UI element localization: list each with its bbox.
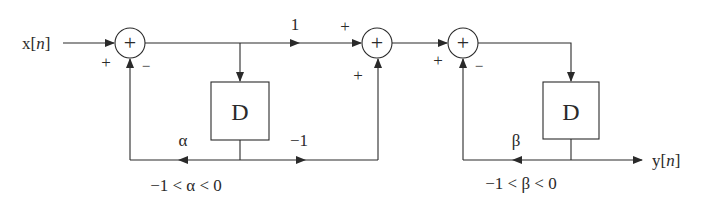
summer-3-sign-minus: −: [475, 58, 483, 74]
block-diagram: x[n] + + − 1 + D α −1 −1 < α < 0 + + +: [0, 0, 706, 208]
alpha-constraint: −1 < α < 0: [150, 176, 222, 195]
input-label: x[n]: [22, 34, 50, 53]
summer-1-sign-minus: −: [142, 58, 150, 74]
gain-1-arrow: [290, 39, 300, 47]
summer-3-symbol: +: [457, 30, 469, 55]
summer-3: +: [448, 28, 478, 58]
summer-3-sign-plus: +: [433, 51, 443, 70]
summer-1: +: [115, 28, 145, 58]
beta-label: β: [512, 131, 521, 150]
beta-arrow: [512, 156, 522, 164]
delay-1: D: [211, 82, 269, 140]
alpha-label: α: [179, 131, 188, 150]
summer-1-sign-plus: +: [101, 53, 111, 72]
minus-one-label: −1: [290, 131, 308, 150]
delay-1-label: D: [231, 99, 248, 125]
summer-1-symbol: +: [124, 30, 136, 55]
minus-one-arrow: [296, 156, 306, 164]
delay-2-input: [478, 43, 571, 81]
summer-2-symbol: +: [371, 30, 383, 55]
delay-2: D: [543, 82, 599, 139]
summer-2-sign-top: +: [340, 17, 350, 36]
delay-2-label: D: [562, 99, 579, 125]
summer-2-sign-bottom: +: [353, 66, 363, 85]
beta-constraint: −1 < β < 0: [485, 174, 556, 193]
alpha-arrow: [178, 156, 188, 164]
summer-2: +: [362, 28, 392, 58]
output-label: y[n]: [652, 151, 680, 170]
gain-forward-label: 1: [291, 15, 300, 34]
